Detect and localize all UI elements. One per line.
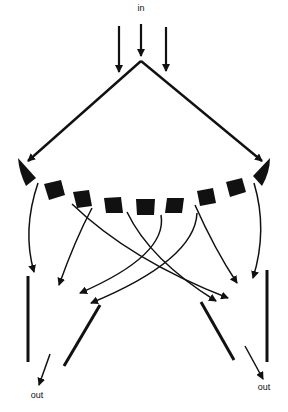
split-arrow-left xyxy=(28,61,141,161)
block-6 xyxy=(197,188,216,206)
block-7 xyxy=(226,178,246,197)
output-label-left: out xyxy=(31,390,44,400)
splitter-lines xyxy=(28,61,262,161)
optical-path-diagram: in xyxy=(0,0,288,412)
input-arrows xyxy=(119,24,166,72)
beam-4 xyxy=(80,215,162,293)
input-label: in xyxy=(137,3,144,13)
block-4 xyxy=(136,199,155,215)
mirror-left-diagonal xyxy=(64,305,100,366)
block-2 xyxy=(73,190,92,208)
block-5 xyxy=(165,198,184,213)
beam-2 xyxy=(59,208,92,285)
split-arrow-right xyxy=(141,61,262,161)
output-arrow-left xyxy=(39,354,50,385)
beam-left-outer xyxy=(29,183,38,272)
beam-right-outer xyxy=(253,183,261,278)
mirror-right-diagonal xyxy=(201,302,234,360)
wedge-right xyxy=(253,158,270,186)
output-label-right: out xyxy=(258,382,271,392)
beam-1 xyxy=(72,204,228,298)
beam-6 xyxy=(195,205,237,283)
output-arrow-right xyxy=(245,346,263,379)
block-3 xyxy=(104,197,123,213)
reflector-blocks xyxy=(44,178,246,215)
wedge-left xyxy=(18,158,36,186)
block-1 xyxy=(44,180,65,200)
output-mirrors xyxy=(28,270,267,366)
